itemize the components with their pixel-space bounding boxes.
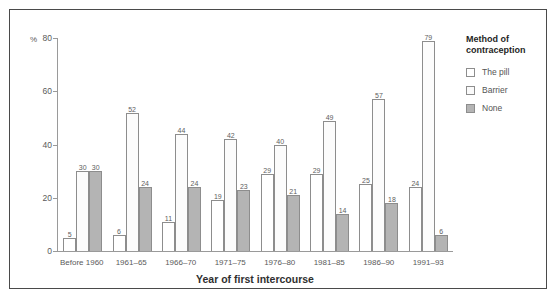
bar-value-label: 25: [362, 177, 370, 184]
bar-value-label: 11: [165, 215, 172, 222]
legend-item[interactable]: Barrier: [466, 86, 546, 95]
bar-value-label: 24: [141, 180, 149, 187]
bar-value-label: 30: [79, 164, 87, 171]
x-axis-title: Year of first intercourse: [57, 274, 453, 285]
bar-group: 194223: [206, 38, 255, 251]
bar: 44: [175, 134, 188, 251]
bar-value-label: 29: [313, 167, 321, 174]
legend-title-line-2: contraception: [466, 45, 546, 56]
bar: 29: [261, 174, 274, 251]
x-axis-line: [57, 251, 453, 252]
y-axis-unit-label: %: [30, 36, 37, 44]
bar: 30: [76, 171, 89, 251]
bar-value-label: 40: [276, 138, 284, 145]
bar: 6: [435, 235, 448, 251]
bar-group: 24796: [404, 38, 453, 251]
x-axis-tick-label: 1961–65: [107, 259, 157, 267]
bar-value-label: 57: [375, 92, 383, 99]
bar: 30: [89, 171, 102, 251]
legend-swatch: [466, 104, 475, 113]
y-axis-tick-label: 80: [43, 34, 52, 43]
bar-value-label: 29: [263, 167, 271, 174]
bar: 6: [113, 235, 126, 251]
bar-value-label: 30: [92, 164, 100, 171]
bar-group: 53030: [58, 38, 107, 251]
bar-value-label: 49: [326, 114, 334, 121]
bar-value-label: 21: [289, 188, 297, 195]
legend-item[interactable]: None: [466, 104, 546, 113]
bar: 21: [287, 195, 300, 251]
bars-layer: 5303065224114424194223294021294914255718…: [58, 38, 453, 251]
bar: 40: [274, 145, 287, 252]
bar: 5: [63, 238, 76, 251]
legend-title: Method of contraception: [466, 34, 546, 57]
x-axis-tick-label: Before 1960: [57, 259, 107, 267]
bar: 24: [188, 187, 201, 251]
x-axis-tick-label: 1981–85: [305, 259, 355, 267]
x-axis-tick-labels: Before 19601961–651966–701971–751976–801…: [57, 259, 453, 267]
bar-value-label: 52: [128, 106, 136, 113]
bar-group: 65224: [107, 38, 156, 251]
x-axis-tick-label: 1966–70: [156, 259, 206, 267]
legend-swatch: [466, 86, 475, 95]
y-axis-tick-mark: [53, 198, 57, 199]
y-axis-tick-mark: [53, 38, 57, 39]
chart-figure: % 020406080 5303065224114424194223294021…: [9, 9, 547, 289]
plot-area: 020406080 530306522411442419422329402129…: [57, 38, 453, 252]
x-axis-tick-label: 1991–93: [404, 259, 454, 267]
y-axis-tick-label: 40: [43, 140, 52, 149]
bar-value-label: 44: [178, 127, 186, 134]
bar-group: 294914: [305, 38, 354, 251]
bar: 52: [126, 113, 139, 251]
y-axis-tick-mark: [53, 251, 57, 252]
y-axis-tick: 0: [57, 251, 58, 252]
bar-value-label: 23: [240, 183, 248, 190]
bar: 25: [359, 184, 372, 251]
legend-title-line-1: Method of: [466, 34, 546, 45]
y-axis-tick-mark: [53, 145, 57, 146]
bar-value-label: 5: [68, 231, 72, 238]
bar-group: 114424: [157, 38, 206, 251]
bar: 23: [237, 190, 250, 251]
bar: 18: [385, 203, 398, 251]
bar-value-label: 42: [227, 132, 235, 139]
bar: 79: [422, 41, 435, 251]
y-axis-tick-label: 0: [47, 247, 52, 256]
legend-swatch: [466, 68, 475, 77]
bar: 19: [211, 200, 224, 251]
chart-legend: Method of contraception The pillBarrierN…: [466, 34, 546, 122]
bar: 24: [139, 187, 152, 251]
x-axis-tick-label: 1986–90: [354, 259, 404, 267]
bar-value-label: 6: [439, 228, 443, 235]
legend-item-label: Barrier: [482, 86, 508, 95]
y-axis-tick-label: 60: [43, 87, 52, 96]
bar-value-label: 14: [339, 207, 347, 214]
bar-value-label: 24: [191, 180, 199, 187]
y-axis-tick-mark: [53, 91, 57, 92]
bar-value-label: 79: [424, 34, 432, 41]
bar: 49: [323, 121, 336, 251]
x-axis-tick-label: 1976–80: [255, 259, 305, 267]
legend-items: The pillBarrierNone: [466, 68, 546, 113]
bar: 42: [224, 139, 237, 251]
bar-group: 255718: [354, 38, 403, 251]
bar-value-label: 19: [214, 193, 222, 200]
bar: 11: [162, 222, 175, 251]
bar: 14: [336, 214, 349, 251]
legend-item[interactable]: The pill: [466, 68, 546, 77]
legend-item-label: None: [482, 104, 502, 113]
bar-group: 294021: [256, 38, 305, 251]
x-axis-tick-label: 1971–75: [206, 259, 256, 267]
y-axis-tick-label: 20: [43, 194, 52, 203]
bar-value-label: 24: [411, 180, 419, 187]
bar: 57: [372, 99, 385, 251]
legend-item-label: The pill: [482, 68, 509, 77]
bar: 29: [310, 174, 323, 251]
bar-value-label: 18: [388, 196, 396, 203]
bar: 24: [409, 187, 422, 251]
bar-value-label: 6: [117, 228, 121, 235]
